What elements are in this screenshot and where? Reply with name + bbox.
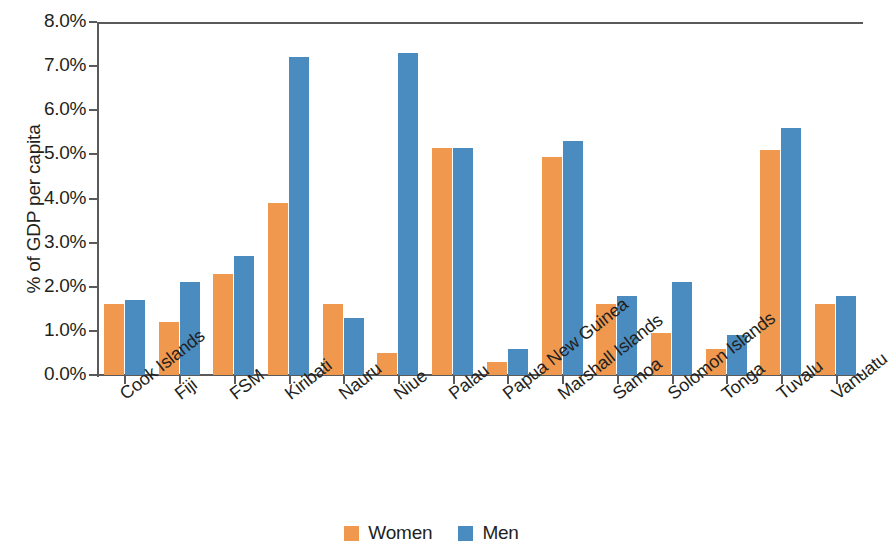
y-axis-tick-label: 2.0% <box>8 275 86 297</box>
y-axis-tick-label-text: 1.0% <box>20 319 86 341</box>
bar-women <box>323 304 343 375</box>
y-axis-tick-label: 8.0% <box>8 10 86 32</box>
y-axis-tick-label: 4.0% <box>8 187 86 209</box>
bars-layer <box>97 22 863 375</box>
y-axis-tick-label: 5.0% <box>8 142 86 164</box>
x-axis-tick <box>781 375 783 384</box>
y-axis-tick <box>89 153 97 155</box>
y-axis-tick <box>89 374 97 376</box>
y-axis-tick <box>89 65 97 67</box>
legend-item: Men <box>458 522 518 544</box>
bar-women <box>596 304 616 375</box>
legend-swatch-icon <box>458 526 473 541</box>
y-axis-tick-label-text: 7.0% <box>20 54 86 76</box>
legend-label: Women <box>368 522 432 544</box>
y-axis-tick-label-text: 3.0% <box>20 231 86 253</box>
y-axis-ticks: 0.0%1.0%2.0%3.0%4.0%5.0%6.0%7.0%8.0% <box>0 0 97 549</box>
x-axis-tick <box>617 375 619 384</box>
y-axis-tick-label-text: 2.0% <box>20 275 86 297</box>
x-axis-tick <box>234 375 236 384</box>
y-axis-tick <box>89 198 97 200</box>
y-axis-tick <box>89 286 97 288</box>
y-axis-tick <box>89 330 97 332</box>
y-axis-tick-label-text: 6.0% <box>20 98 86 120</box>
legend-label: Men <box>482 522 518 544</box>
bar-women <box>268 203 288 375</box>
x-axis-tick <box>562 375 564 384</box>
x-axis-tick <box>453 375 455 384</box>
y-axis-tick-label: 0.0% <box>8 363 86 385</box>
bar-men <box>398 53 418 375</box>
x-axis-tick <box>179 375 181 384</box>
bar-women <box>706 349 726 375</box>
bar-women <box>213 274 233 375</box>
bar-men <box>727 335 747 375</box>
bar-men <box>453 148 473 375</box>
bar-women <box>377 353 397 375</box>
bar-women <box>760 150 780 375</box>
bar-women <box>542 157 562 375</box>
bar-women <box>432 148 452 375</box>
y-axis-tick-label: 6.0% <box>8 98 86 120</box>
x-axis-tick <box>289 375 291 384</box>
y-axis-tick-label: 3.0% <box>8 231 86 253</box>
y-axis-tick-label-text: 8.0% <box>20 10 86 32</box>
y-axis-tick-label-text: 5.0% <box>20 142 86 164</box>
bar-men <box>180 282 200 375</box>
bar-women <box>815 304 835 375</box>
x-axis-tick <box>507 375 509 384</box>
bar-men <box>289 57 309 375</box>
y-axis-tick-label: 1.0% <box>8 319 86 341</box>
x-axis-tick <box>124 375 126 384</box>
x-axis-tick <box>398 375 400 384</box>
chart-legend: WomenMen <box>0 522 863 544</box>
x-axis-label: Fiji <box>171 374 201 404</box>
bar-women <box>651 333 671 375</box>
y-axis-tick <box>89 109 97 111</box>
bar-men <box>234 256 254 375</box>
bar-men <box>781 128 801 375</box>
x-axis-tick <box>343 375 345 384</box>
legend-item: Women <box>344 522 432 544</box>
y-axis-tick <box>89 21 97 23</box>
bar-men <box>672 282 692 375</box>
bar-women <box>487 362 507 375</box>
y-axis-tick-label-text: 0.0% <box>20 363 86 385</box>
x-axis-tick <box>726 375 728 384</box>
bar-men <box>617 296 637 375</box>
bar-men <box>508 349 528 375</box>
y-axis-tick-label-text: 4.0% <box>20 187 86 209</box>
bar-men <box>344 318 364 375</box>
legend-swatch-icon <box>344 526 359 541</box>
bar-men <box>125 300 145 375</box>
y-axis-tick-label: 7.0% <box>8 54 86 76</box>
bar-men <box>836 296 856 375</box>
bar-women <box>104 304 124 375</box>
bar-men <box>563 141 583 375</box>
x-axis-tick <box>672 375 674 384</box>
bar-women <box>159 322 179 375</box>
y-axis-tick <box>89 242 97 244</box>
x-axis-tick <box>836 375 838 384</box>
